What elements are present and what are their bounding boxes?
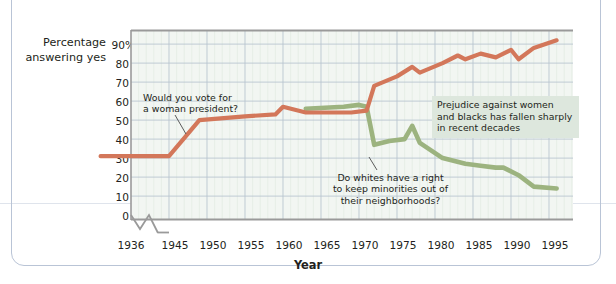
annotation-callout-prejudice: Prejudice against women and blacks has f… (432, 96, 579, 138)
annotation-woman-president: Would you vote for a woman president? (143, 92, 238, 115)
figure-container: Percentage answering yes 90% 80 70 60 50… (0, 0, 616, 284)
chart-plot-area (0, 0, 616, 284)
annotation-whites-neighborhoods: Do whites have a right to keep minoritie… (324, 172, 457, 206)
